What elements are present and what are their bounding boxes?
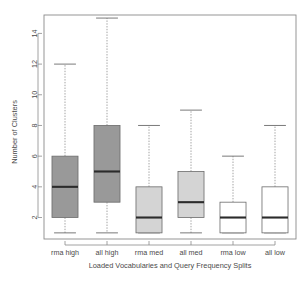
x-tick-label-rma-low: rma low [220, 248, 246, 257]
x-tick-label-all-high: all high [96, 248, 119, 257]
x-tick-label-rma-med: rma med [135, 248, 163, 257]
boxplot-chart: 2468101214 rma highall highrma medall me… [0, 0, 304, 283]
x-tick-label-rma-high: rma high [51, 248, 79, 257]
x-tick-label-all-med: all med [179, 248, 202, 257]
y-tick-label: 8 [31, 123, 40, 127]
box-body [178, 171, 204, 217]
y-tick-label: 6 [31, 154, 40, 158]
box-body [262, 187, 288, 233]
box-body [136, 187, 162, 233]
x-axis-title: Loaded Vocabularies and Query Frequency … [89, 261, 252, 270]
y-tick-label: 4 [31, 185, 40, 189]
x-tick-label-all-low: all low [265, 248, 286, 257]
y-tick-label: 14 [31, 29, 40, 37]
y-tick-label: 10 [31, 91, 40, 99]
chart-background [0, 0, 304, 283]
box-body [94, 125, 120, 202]
y-tick-label: 2 [31, 216, 40, 220]
y-tick-label: 12 [31, 60, 40, 68]
plot-canvas: 2468101214 rma highall highrma medall me… [0, 0, 304, 283]
y-axis-title: Number of Clusters [10, 100, 19, 164]
